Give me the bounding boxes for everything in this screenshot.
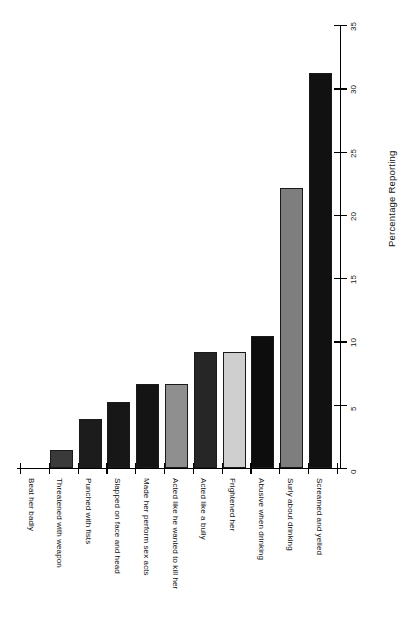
bar (107, 402, 130, 468)
category-tick (20, 463, 21, 474)
bar (165, 384, 188, 468)
category-label: Acted like a bully (199, 478, 208, 540)
value-tick (334, 405, 347, 406)
bar (194, 352, 217, 468)
bar (223, 352, 246, 468)
category-tick (279, 463, 280, 474)
value-tick-label: 15 (349, 275, 358, 284)
value-tick-label: 20 (349, 212, 358, 221)
bar (309, 73, 332, 468)
bar (251, 336, 274, 468)
value-tick (334, 25, 347, 26)
bar (136, 384, 159, 468)
category-label: Abusive when drinking (257, 478, 266, 560)
value-tick-label: 0 (349, 470, 358, 474)
category-label: Threatened with weapon (55, 478, 64, 568)
value-tick (334, 215, 347, 216)
value-tick-label: 25 (349, 149, 358, 158)
category-tick (222, 463, 223, 474)
value-tick (334, 152, 347, 153)
category-tick (49, 463, 50, 474)
value-tick-label: 10 (349, 339, 358, 348)
value-tick (334, 88, 347, 89)
value-tick-label: 30 (349, 85, 358, 94)
value-tick-label: 35 (349, 22, 358, 31)
category-label: Frightened her (228, 478, 237, 531)
value-tick-label: 5 (349, 406, 358, 410)
category-tick (308, 463, 309, 474)
category-label: Made her perform sex acts (142, 478, 151, 576)
category-label: Slapped on face and head (113, 478, 122, 574)
category-tick (106, 463, 107, 474)
plot-area: 05101520253035 Beat her badlyThreatened … (0, 0, 403, 627)
value-axis-line (340, 25, 341, 469)
category-tick (193, 463, 194, 474)
bar (79, 419, 102, 468)
category-axis-line (17, 468, 340, 469)
category-label: Screamed and yelled (315, 478, 324, 555)
value-tick (334, 341, 347, 342)
bar-chart: 05101520253035 Beat her badlyThreatened … (0, 0, 403, 627)
category-tick (164, 463, 165, 474)
category-label: Punched with fists (84, 478, 93, 544)
category-label: Beat her badly (27, 478, 36, 531)
value-tick (334, 468, 347, 469)
category-tick (135, 463, 136, 474)
value-tick (334, 278, 347, 279)
category-label: Acted like he wanted to kill her (171, 478, 180, 589)
category-tick (250, 463, 251, 474)
category-label: Surly about drinking (286, 478, 295, 551)
bar (50, 450, 73, 468)
value-axis-title: Percentage Reporting (386, 151, 397, 247)
category-tick (78, 463, 79, 474)
bar (280, 188, 303, 468)
